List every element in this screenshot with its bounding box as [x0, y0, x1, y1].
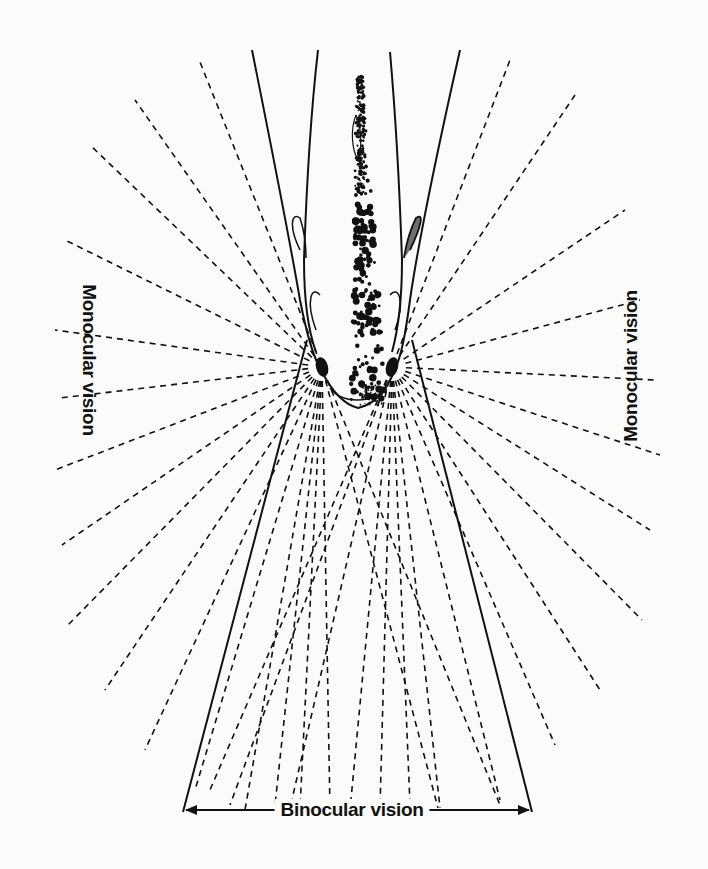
- binocular-right-edge: [412, 340, 532, 812]
- binocular-boundary-lines: [183, 340, 532, 812]
- vision-ray: [400, 379, 600, 690]
- vision-ray: [402, 377, 642, 620]
- vision-ray: [90, 145, 312, 357]
- vision-ray: [393, 381, 410, 805]
- vision-ray: [400, 95, 575, 355]
- vision-ray: [68, 377, 312, 625]
- vision-ray: [406, 368, 655, 380]
- vision-ray: [327, 380, 500, 805]
- diagram-canvas: [0, 0, 708, 869]
- vision-ray: [406, 300, 640, 363]
- vision-ray: [398, 380, 555, 745]
- right-eye-vision-rays: [210, 60, 660, 810]
- fish-vision-diagram: Monocular vision Monocular vision Binocu…: [0, 0, 708, 869]
- vision-ray: [394, 381, 440, 808]
- vision-ray: [210, 380, 386, 790]
- monocular-vision-left-label: Monocular vision: [78, 284, 100, 435]
- vision-ray: [322, 381, 330, 810]
- monocular-vision-right-label: Monocular vision: [620, 290, 642, 441]
- binocular-left-edge: [183, 340, 307, 812]
- vision-ray: [350, 381, 391, 810]
- vision-ray: [275, 381, 321, 805]
- vision-ray: [404, 210, 625, 359]
- vision-ray: [245, 381, 320, 810]
- vision-ray: [105, 379, 314, 690]
- vision-ray: [65, 240, 309, 361]
- vision-ray: [200, 62, 317, 354]
- fish-spots: [349, 75, 387, 406]
- vision-ray: [145, 380, 316, 750]
- vision-ray: [290, 381, 389, 808]
- binocular-vision-label: Binocular vision: [274, 799, 429, 821]
- vision-ray: [397, 60, 510, 354]
- vision-ray: [300, 381, 321, 808]
- vision-ray: [195, 380, 318, 790]
- vision-ray: [395, 381, 500, 800]
